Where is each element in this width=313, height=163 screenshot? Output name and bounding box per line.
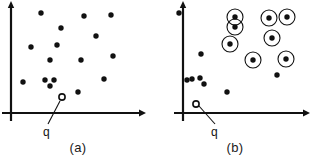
panel-a-plot <box>0 0 156 140</box>
query-point-marker <box>193 101 199 107</box>
data-point <box>269 35 274 40</box>
data-point <box>284 14 289 19</box>
data-point <box>110 53 115 58</box>
data-point <box>197 75 202 80</box>
data-point <box>283 56 288 61</box>
data-point <box>232 24 237 29</box>
panel-b-caption: (b) <box>157 140 313 155</box>
data-point <box>54 42 59 47</box>
y-axis-arrowhead-icon <box>8 1 14 8</box>
panel-b-plot <box>157 0 313 140</box>
panel-b-query-label: q <box>211 125 218 139</box>
data-point <box>93 33 98 38</box>
data-point <box>28 44 33 49</box>
panel-b: q (b) <box>157 0 313 163</box>
data-point <box>227 41 232 46</box>
y-axis-arrowhead-icon <box>180 1 186 8</box>
data-point <box>224 89 229 94</box>
data-point <box>81 13 86 18</box>
data-point <box>51 77 56 82</box>
data-point <box>47 83 52 88</box>
data-point <box>274 72 279 77</box>
data-point <box>38 10 43 15</box>
data-point <box>201 81 206 86</box>
panel-a-caption: (a) <box>0 140 156 155</box>
query-point-marker <box>59 94 65 100</box>
data-point <box>58 25 63 30</box>
data-point <box>108 12 113 17</box>
data-point <box>198 51 203 56</box>
query-leader-line <box>199 106 215 124</box>
panel-a: q (a) <box>0 0 156 163</box>
panel-a-query-label: q <box>43 125 50 139</box>
data-point <box>250 57 255 62</box>
data-point <box>189 76 194 81</box>
figure-container: q (a) q (b) <box>0 0 313 163</box>
x-axis-arrowhead-icon <box>139 110 146 117</box>
data-point <box>42 77 47 82</box>
data-point <box>184 77 189 82</box>
data-point <box>101 76 106 81</box>
data-point <box>176 10 181 15</box>
data-point <box>47 57 52 62</box>
data-point <box>20 79 25 84</box>
data-point <box>75 89 80 94</box>
x-axis-arrowhead-icon <box>303 110 310 117</box>
data-point <box>78 57 83 62</box>
data-point <box>266 15 271 20</box>
